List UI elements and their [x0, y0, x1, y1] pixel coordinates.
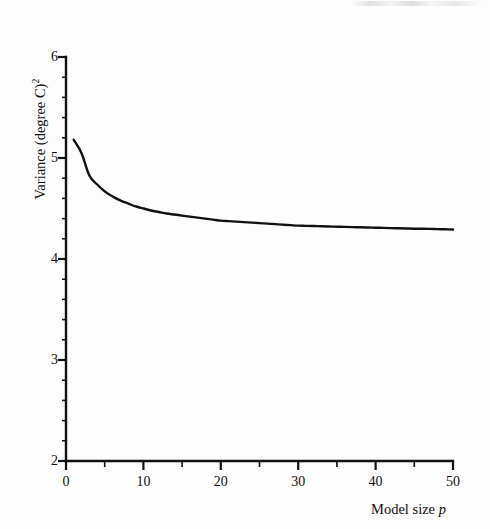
y-tick-label: 3: [44, 353, 58, 367]
x-tick-label: 20: [206, 475, 236, 489]
x-tick-label: 10: [128, 475, 158, 489]
x-axis-title-main: Model size: [371, 501, 439, 517]
x-axis-title-variable: p: [439, 501, 446, 517]
y-axis-ticks: [58, 57, 66, 461]
x-axis-title: Model size p: [371, 501, 446, 518]
x-axis-ticks: [66, 461, 453, 470]
axis-lines: [66, 57, 453, 461]
y-axis-title: Variance (degree C)2: [32, 79, 49, 200]
y-tick-label: 6: [44, 50, 58, 64]
x-tick-label: 40: [361, 475, 391, 489]
x-tick-label: 0: [51, 475, 81, 489]
plot-canvas: [0, 0, 490, 529]
x-tick-label: 50: [438, 475, 468, 489]
figure-container: 23456 01020304050 Variance (degree C)2 M…: [0, 0, 490, 529]
x-tick-label: 30: [283, 475, 313, 489]
y-axis-title-exponent: 2: [30, 79, 41, 84]
data-series-group: [74, 140, 453, 230]
y-axis-title-main: Variance (degree C): [32, 84, 48, 200]
data-line-variance: [74, 140, 453, 230]
y-tick-label: 4: [44, 252, 58, 266]
y-tick-label: 2: [44, 454, 58, 468]
